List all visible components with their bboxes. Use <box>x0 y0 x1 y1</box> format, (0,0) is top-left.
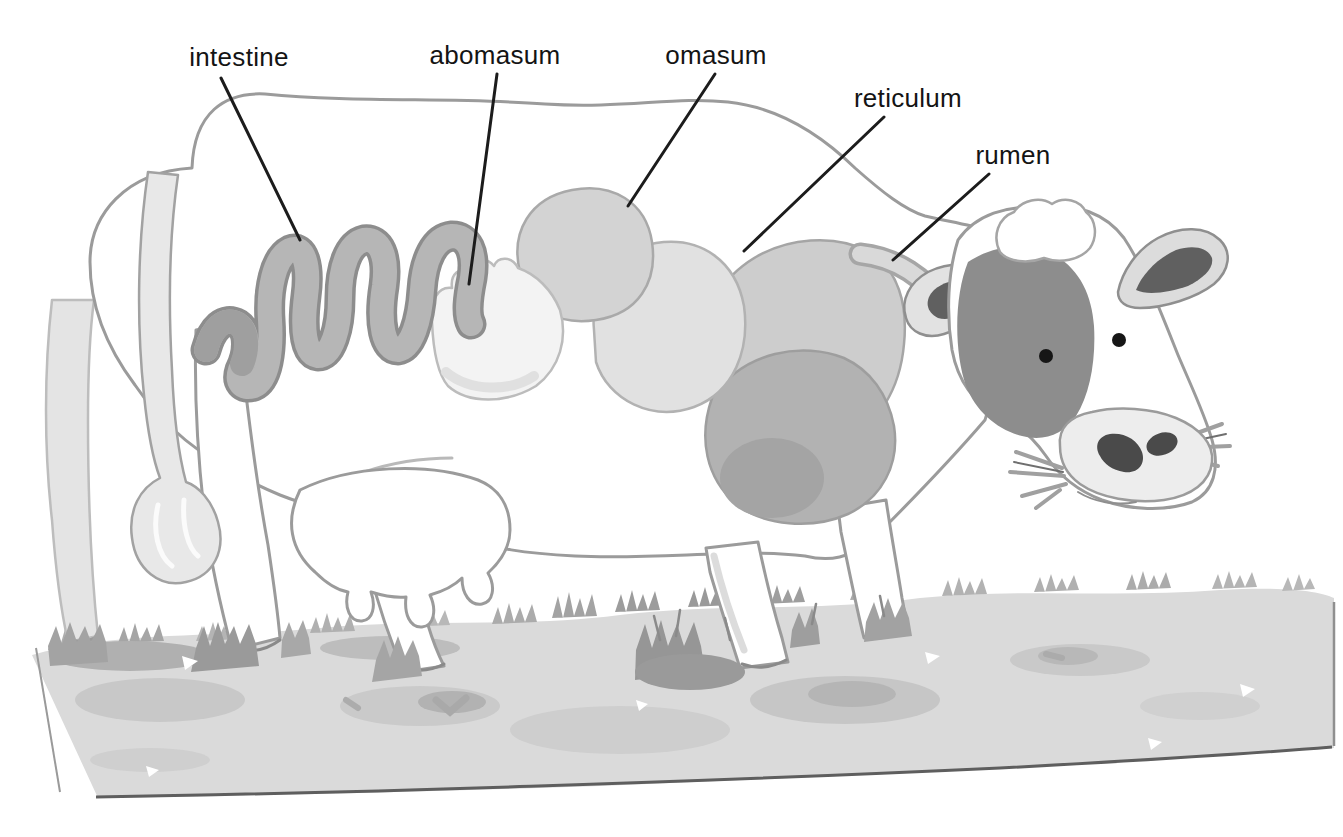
right-ear <box>1118 229 1228 308</box>
cow-digestive-diagram: intestine abomasum omasum reticulum rume… <box>0 0 1343 837</box>
label-rumen: rumen <box>975 140 1050 170</box>
organ-rumen-dark-bump <box>720 438 824 518</box>
label-abomasum: abomasum <box>429 40 560 70</box>
diagram-canvas: intestine abomasum omasum reticulum rume… <box>0 0 1343 837</box>
label-omasum: omasum <box>665 40 767 70</box>
left-eye <box>1039 349 1053 363</box>
cow-far-hind-leg <box>46 300 98 642</box>
label-intestine: intestine <box>189 42 289 72</box>
label-reticulum: reticulum <box>854 83 962 113</box>
right-eye <box>1112 333 1126 347</box>
